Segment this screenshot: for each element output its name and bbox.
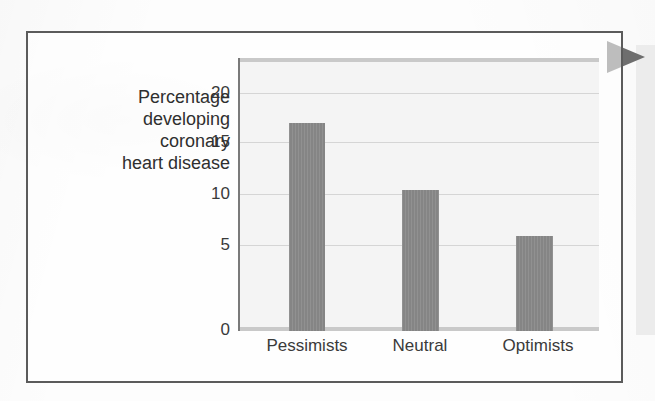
figure-frame: 20 15 10 5 0 Pessimists Neutral Optimist… <box>26 31 623 383</box>
y-tick-label-5: 5 <box>188 235 230 255</box>
page-edge-strip <box>636 45 655 335</box>
bar-chart: 20 15 10 5 0 Pessimists Neutral Optimist… <box>28 33 625 385</box>
y-axis-title: Percentage developing coronary heart dis… <box>46 86 230 174</box>
y-axis-title-line-1: Percentage <box>46 86 230 108</box>
bar-pessimists <box>289 123 325 331</box>
y-axis-title-line-3: coronary <box>46 130 230 152</box>
y-tick-label-10: 10 <box>188 184 230 204</box>
screenshot-page: 20 15 10 5 0 Pessimists Neutral Optimist… <box>0 0 655 401</box>
y-axis-title-line-4: heart disease <box>46 152 230 174</box>
y-tick-label-0: 0 <box>188 320 230 340</box>
x-tick-label-neutral: Neutral <box>365 336 475 356</box>
bar-optimists <box>516 236 553 331</box>
y-axis-title-line-2: developing <box>46 108 230 130</box>
x-tick-label-pessimists: Pessimists <box>247 336 367 356</box>
bar-neutral <box>402 190 439 331</box>
x-tick-label-optimists: Optimists <box>478 336 598 356</box>
plot-top-rule <box>240 58 599 62</box>
gridline-20 <box>240 93 599 94</box>
